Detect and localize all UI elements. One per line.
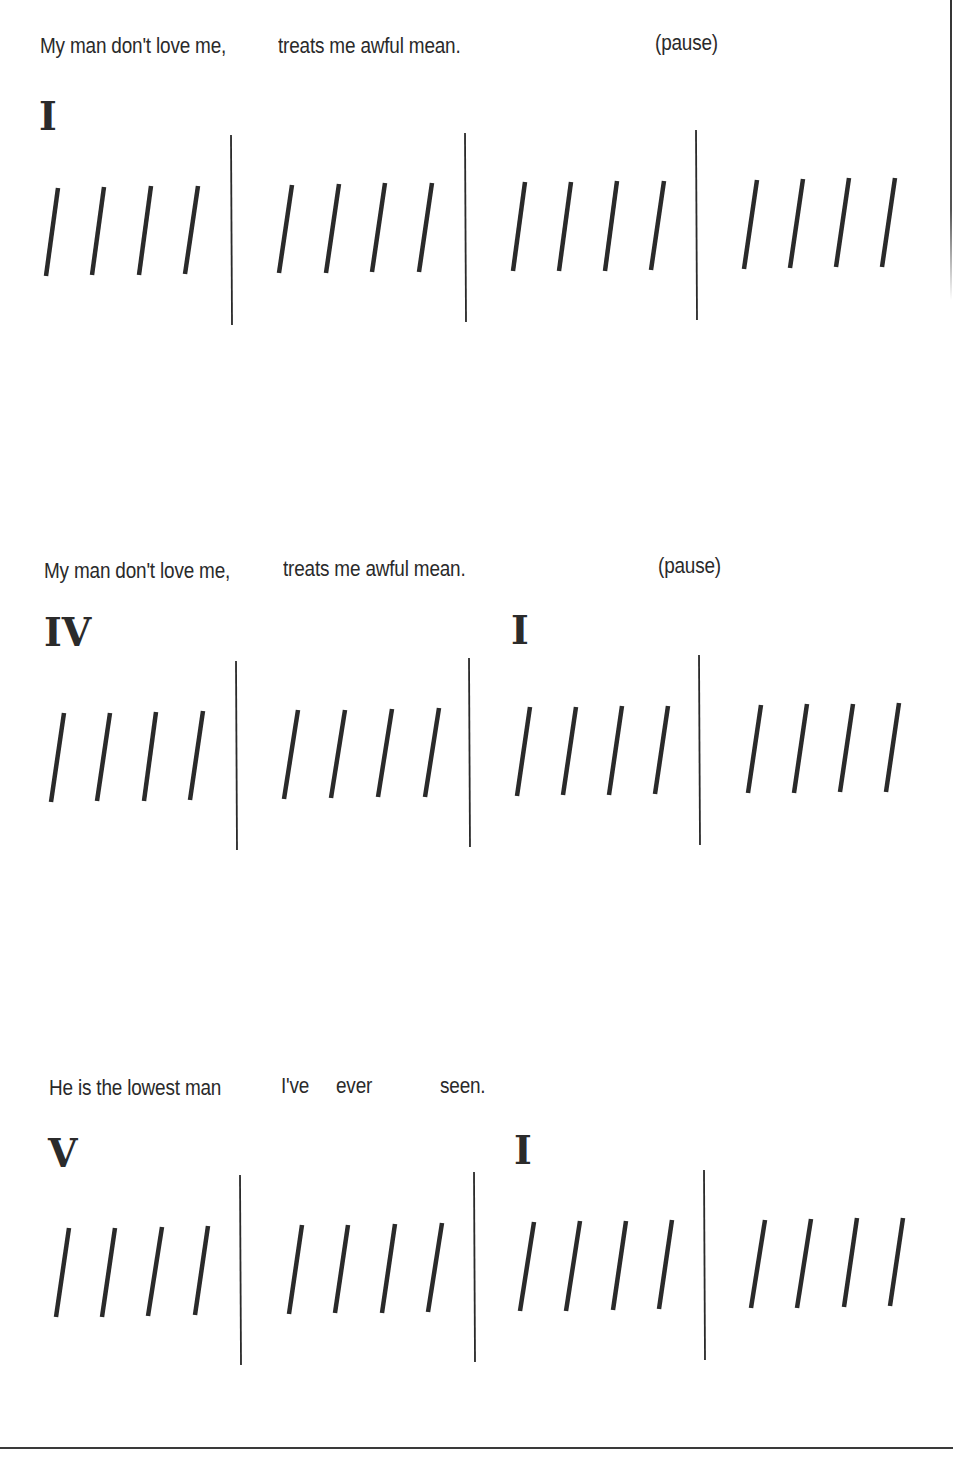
beat-slash xyxy=(659,1220,672,1309)
beat-slash xyxy=(563,707,576,795)
beat-slash xyxy=(797,1219,811,1308)
beat-slash xyxy=(794,704,807,793)
beat-slash xyxy=(651,181,664,270)
beat-slash xyxy=(378,709,392,797)
beat-slash xyxy=(655,706,668,794)
beat-slash xyxy=(148,1227,162,1316)
beat-slash xyxy=(748,705,761,793)
beat-slash xyxy=(605,181,617,271)
beat-slash xyxy=(744,180,757,269)
barline xyxy=(696,130,697,320)
beat-slash xyxy=(51,713,64,802)
beat-slash xyxy=(382,1224,395,1313)
beat-slash xyxy=(326,184,339,273)
barline xyxy=(231,135,232,325)
beat-slash xyxy=(751,1220,765,1308)
barline xyxy=(240,1175,241,1365)
chord-chart-page: My man don't love me, treats me awful me… xyxy=(0,0,953,1460)
beat-slash xyxy=(890,1218,903,1306)
beat-slash xyxy=(185,186,198,274)
beat-slash xyxy=(425,708,439,797)
beat-slash xyxy=(46,188,58,276)
beat-slash xyxy=(790,179,803,268)
beat-slash xyxy=(56,1228,69,1317)
barline xyxy=(474,1172,475,1362)
beat-slash xyxy=(335,1225,348,1313)
beat-slash xyxy=(284,710,298,799)
beat-slash xyxy=(836,178,849,267)
beat-slash xyxy=(566,1221,580,1311)
beat-slash xyxy=(139,186,151,275)
beat-slash xyxy=(613,1221,626,1310)
beat-slash xyxy=(144,712,156,801)
beat-slash xyxy=(190,711,203,800)
beat-slash xyxy=(882,178,895,267)
beat-slash xyxy=(428,1223,442,1312)
barline xyxy=(699,655,700,845)
beat-slash xyxy=(97,713,110,801)
barline xyxy=(704,1170,705,1360)
beat-slash xyxy=(886,703,899,792)
beat-slash xyxy=(517,707,530,796)
barline xyxy=(469,658,470,847)
beat-slash xyxy=(331,710,345,798)
beat-slash xyxy=(289,1225,302,1314)
barline xyxy=(465,133,466,322)
barline xyxy=(236,661,237,850)
beat-slash xyxy=(609,706,622,795)
beat-slash xyxy=(419,183,432,272)
beat-slash xyxy=(520,1222,534,1311)
beat-slash xyxy=(279,185,292,273)
beat-slash xyxy=(513,182,525,271)
rhythm-slash-notation xyxy=(0,0,953,1460)
beat-slash xyxy=(102,1228,115,1317)
beat-slash xyxy=(840,704,853,792)
beat-slash xyxy=(372,183,385,272)
beat-slash xyxy=(559,182,571,271)
beat-slash xyxy=(844,1218,857,1307)
beat-slash xyxy=(195,1226,208,1315)
beat-slash xyxy=(92,187,104,275)
